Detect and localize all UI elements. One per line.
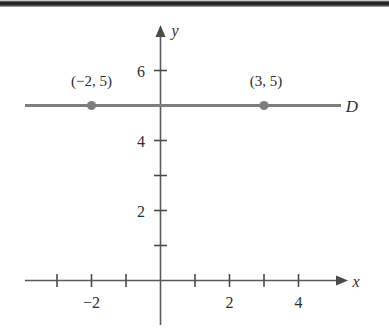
x-tick-label-2: 2 bbox=[226, 294, 234, 311]
y-tick-label-6: 6 bbox=[137, 63, 145, 80]
data-point-3-5[interactable] bbox=[259, 101, 268, 110]
coordinate-plane-svg: 6 4 2 −2 2 4 x y (−2, 5) (3, 5) D bbox=[0, 0, 389, 335]
y-axis-name-label: y bbox=[169, 22, 179, 40]
x-axis-arrowhead bbox=[336, 276, 348, 286]
point-label-minus2-5: (−2, 5) bbox=[71, 73, 112, 90]
x-axis-name-label: x bbox=[351, 273, 359, 290]
graph-figure: 6 4 2 −2 2 4 x y (−2, 5) (3, 5) D bbox=[0, 0, 389, 335]
x-tick-label-minus2: −2 bbox=[83, 294, 100, 311]
y-axis-arrowhead bbox=[156, 25, 166, 37]
scan-artifact-band bbox=[0, 0, 389, 7]
y-tick-label-4: 4 bbox=[137, 133, 145, 150]
x-tick-label-4: 4 bbox=[295, 294, 303, 311]
y-tick-label-2: 2 bbox=[137, 203, 145, 220]
data-point-minus2-5[interactable] bbox=[87, 101, 96, 110]
point-label-3-5: (3, 5) bbox=[250, 73, 283, 90]
x-axis-group bbox=[25, 276, 348, 286]
line-name-label-D: D bbox=[345, 97, 359, 116]
